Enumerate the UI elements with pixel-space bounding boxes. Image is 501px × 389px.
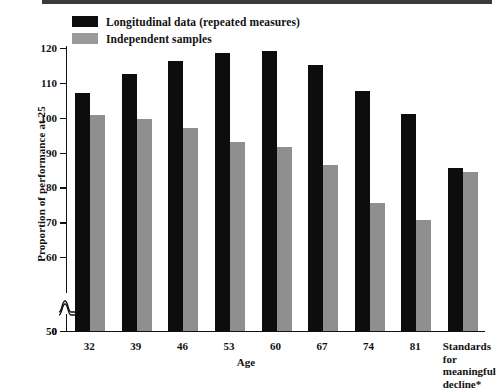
legend-label-independent: Independent samples [106,33,212,45]
y-tick-label: 100 [41,112,58,124]
y-tick-mark [60,331,66,332]
legend-item-longitudinal: Longitudinal data (repeated measures) [72,14,402,29]
bar-longitudinal-1 [122,74,137,331]
x-axis-title: Age [0,356,492,368]
bar-independent-3 [230,142,245,331]
bar-independent-2 [183,128,198,331]
bar-independent-1 [137,119,152,331]
bars-layer [66,46,485,331]
x-tick-label-6: 74 [345,340,392,353]
legend-swatch-gray-icon [72,33,98,44]
bar-longitudinal-5 [308,65,323,331]
x-tick-label-4: 60 [252,340,299,353]
bar-independent-4 [277,147,292,331]
x-tick-label-5: 67 [299,340,346,353]
y-tick-label: 80 [46,181,57,193]
bar-longitudinal-8 [448,168,463,331]
x-tick-label-1: 39 [113,340,160,353]
y-tick-label: 120 [41,42,58,54]
x-tick-label-line: Standards [443,340,501,353]
bar-longitudinal-0 [75,93,90,331]
bar-independent-0 [90,115,105,331]
x-tick-label-line: meaningful [443,365,501,378]
y-tick-label: 60 [46,251,57,263]
bar-longitudinal-2 [168,61,183,331]
legend-label-longitudinal: Longitudinal data (repeated measures) [106,16,300,28]
x-tick-label-7: 81 [392,340,439,353]
y-tick-label: 90 [46,147,57,159]
legend-item-independent: Independent samples [72,31,402,46]
x-tick-label-2: 46 [159,340,206,353]
bar-longitudinal-6 [355,91,370,331]
bar-longitudinal-7 [401,114,416,331]
bar-independent-7 [416,220,431,331]
x-tick-label-3: 53 [206,340,253,353]
y-tick-label: 110 [41,77,57,89]
y-tick-label: 70 [46,216,57,228]
bar-independent-6 [370,203,385,331]
y-tick-label: 50 [46,325,57,337]
scan-edge-band [42,0,492,4]
bar-independent-8 [463,172,478,331]
x-tick-label-0: 32 [66,340,113,353]
x-axis-line [66,331,485,332]
bar-longitudinal-3 [215,53,230,331]
bar-longitudinal-4 [262,51,277,331]
x-tick-label-line: decline* [443,378,501,389]
x-tick-label-8: Standardsformeaningfuldecline* [443,340,501,389]
bar-independent-5 [323,165,338,331]
chart-legend: Longitudinal data (repeated measures) In… [72,14,402,48]
legend-swatch-black-icon [72,16,98,27]
plot-area: 05060708090100110120 3239465360677481Sta… [66,46,485,332]
x-tick-label-line: for [443,353,501,366]
